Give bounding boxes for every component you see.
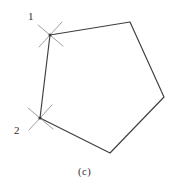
vertex-label-2: 2 xyxy=(14,125,20,136)
vertex-label-1: 1 xyxy=(28,11,34,22)
canvas-background xyxy=(0,0,180,186)
vertex-marker-1 xyxy=(49,34,52,37)
geometry-canvas xyxy=(0,0,180,186)
vertex-marker-2 xyxy=(38,116,41,119)
figure-caption: (c) xyxy=(78,167,91,178)
figure-root: 1 2 (c) xyxy=(0,0,180,186)
